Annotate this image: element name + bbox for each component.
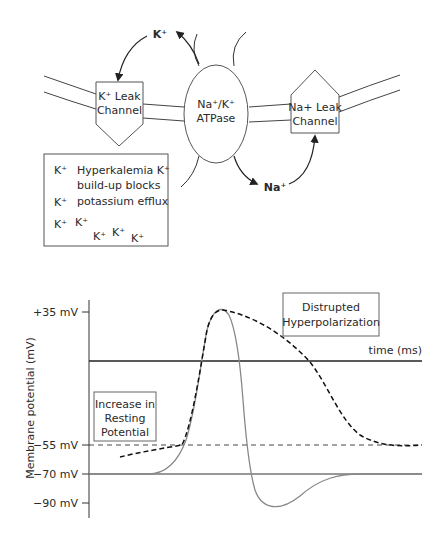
k-ion-label: K⁺	[153, 28, 168, 41]
hyperkalemia-line1: Hyperkalemia K⁺	[77, 164, 170, 177]
increase-label-line2: Resting	[105, 412, 146, 425]
k-ion-5: K⁺	[93, 230, 106, 243]
na-leak-label-line1: Na+ Leak	[288, 101, 342, 114]
na-leak-channel: Na+ Leak Channel	[288, 70, 342, 133]
y-axis-label: Membrane potential (mV)	[24, 337, 37, 479]
hyperkalemia-diagram: K⁺ Leak Channel Na⁺/K⁺ ATPase Na+ Leak C…	[0, 0, 447, 546]
na-ion-flow	[234, 136, 315, 184]
tick-label-plus35: +35 mV	[33, 306, 78, 319]
action-potential-chart: +35 mV −55 mV −70 mV −90 mV Membrane pot…	[24, 293, 422, 518]
tick-label-minus55: −55 mV	[33, 439, 78, 452]
arc-top-right	[233, 32, 246, 66]
k-ion-1: K⁺	[54, 164, 67, 177]
disrupted-label-line1: Distrupted	[302, 301, 360, 314]
arrow-na-out-icon	[234, 156, 257, 184]
k-ion-2: K⁺	[54, 196, 67, 209]
pump-label-line1: Na⁺/K⁺	[197, 98, 235, 111]
y-ticks	[82, 312, 89, 503]
increase-label-line3: Potential	[101, 426, 149, 439]
k-ion-4: K⁺	[75, 216, 88, 229]
k-leak-channel: K⁺ Leak Channel	[96, 82, 143, 146]
arrow-na-to-channel-icon	[289, 136, 315, 184]
hyperkalemia-line3: potassium efflux	[77, 195, 169, 208]
tick-label-minus90: −90 mV	[33, 497, 78, 510]
increase-label-line1: Increase in	[95, 398, 155, 411]
hyperkalemia-line2: build-up blocks	[77, 179, 161, 192]
na-leak-label-line2: Channel	[292, 115, 337, 128]
x-axis-label: time (ms)	[369, 344, 422, 357]
disrupted-label-line2: Hyperpolarization	[282, 316, 380, 329]
k-ion-7: K⁺	[131, 232, 144, 245]
arc-bottom-left	[181, 156, 199, 187]
tick-label-minus70: −70 mV	[33, 468, 78, 481]
k-leak-label-line1: K⁺ Leak	[98, 90, 141, 103]
pump-label-line2: ATPase	[197, 112, 236, 125]
k-ion-6: K⁺	[112, 226, 125, 239]
arrow-k-to-channel-icon	[118, 36, 147, 80]
increase-resting-potential-box: Increase in Resting Potential	[94, 392, 156, 441]
k-leak-label-line2: Channel	[97, 104, 142, 117]
na-ion-label: Na⁺	[264, 181, 287, 194]
hyperkalemia-box: K⁺ Hyperkalemia K⁺ build-up blocks K⁺ po…	[44, 154, 170, 246]
na-k-atpase-pump: Na⁺/K⁺ ATPase	[184, 65, 248, 163]
disrupted-hyperpolarization-box: Distrupted Hyperpolarization	[282, 293, 380, 336]
k-ion-3: K⁺	[54, 218, 67, 231]
